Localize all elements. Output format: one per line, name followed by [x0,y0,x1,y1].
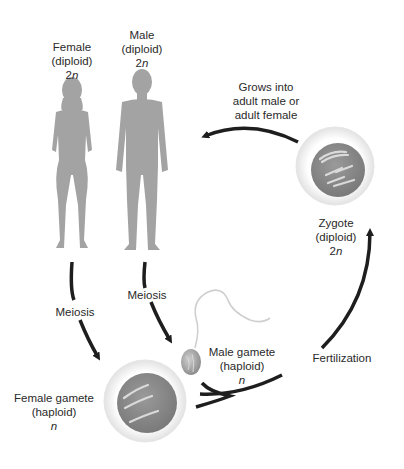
female-silhouette-icon [52,77,92,248]
female-gamete-cell-icon [104,360,186,442]
female-ploidy: 2n [30,68,114,82]
grows-line3: adult female [218,108,314,122]
grows-line1: Grows into [218,80,314,94]
growth-arrow [205,128,298,142]
zygote-line2: (diploid) [300,230,372,244]
female-gamete-label: Female gamete (haploid) n [10,391,98,433]
grows-line2: adult male or [218,94,314,108]
male-label-line2: (diploid) [100,42,184,56]
male-gamete-label: Male gamete (haploid) n [202,345,282,387]
male-gamete-ploidy: n [202,373,282,387]
fertilization-label: Fertilization [302,351,382,365]
zygote-label: Zygote (diploid) 2n [300,216,372,258]
zygote-cell-icon [296,127,374,205]
meiosis-male-label: Meiosis [122,288,172,302]
zygote-ploidy: 2n [300,244,372,258]
female-gamete-line2: (haploid) [10,405,98,419]
female-gamete-ploidy: n [10,419,98,433]
male-silhouette-icon [116,69,168,250]
zygote-line1: Zygote [300,216,372,230]
male-gamete-line1: Male gamete [202,345,282,359]
male-label-line1: Male [100,28,184,42]
female-gamete-line1: Female gamete [10,391,98,405]
male-gamete-line2: (haploid) [202,359,282,373]
male-adult-label: Male (diploid) 2n [100,28,184,70]
male-ploidy: 2n [100,56,184,70]
meiosis-female-label: Meiosis [50,305,100,319]
grows-label: Grows into adult male or adult female [218,80,314,122]
